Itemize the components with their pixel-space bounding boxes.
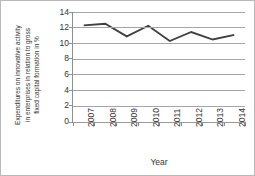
x-axis-tick <box>73 122 74 126</box>
y-axis-tick-labels: 14 12 10 8 6 4 2 0 <box>5 1 69 176</box>
x-tick-label-2007: 2007 <box>87 87 96 127</box>
y-tick-label: 0 <box>13 117 69 126</box>
gridline <box>73 59 245 60</box>
chart-figure: Expenditures on innovative activity in e… <box>0 0 255 176</box>
y-tick-label: 8 <box>13 54 69 63</box>
y-tick-label: 14 <box>13 8 69 17</box>
y-tick-label: 10 <box>13 39 69 48</box>
y-tick-label: 6 <box>13 70 69 79</box>
x-tick-label-2010: 2010 <box>152 87 161 127</box>
gridline <box>73 43 245 44</box>
y-tick-label: 4 <box>13 86 69 95</box>
x-tick-label-2013: 2013 <box>216 87 225 127</box>
gridline <box>73 27 245 28</box>
y-tick-label: 2 <box>13 101 69 110</box>
x-tick-label-2011: 2011 <box>173 87 182 127</box>
gridline <box>73 12 245 13</box>
x-axis-title: Year <box>73 157 245 167</box>
x-tick-label-2008: 2008 <box>109 87 118 127</box>
gridline <box>73 74 245 75</box>
x-tick-label-2012: 2012 <box>195 87 204 127</box>
x-tick-label-2009: 2009 <box>130 87 139 127</box>
x-tick-label-2014: 2014 <box>238 87 247 127</box>
y-tick-label: 12 <box>13 23 69 32</box>
